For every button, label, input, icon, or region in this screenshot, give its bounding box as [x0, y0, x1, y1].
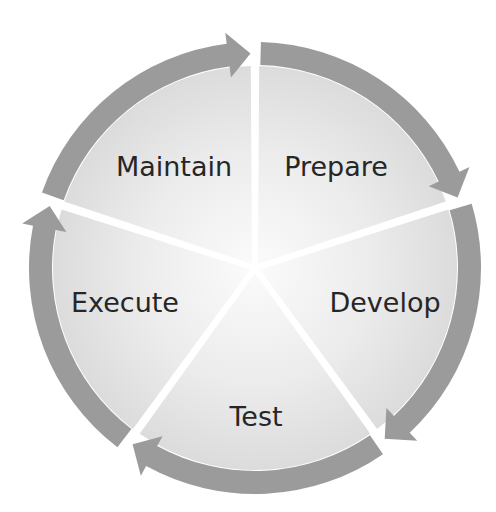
stage-label-execute: Execute: [71, 287, 179, 318]
stage-label-maintain: Maintain: [116, 151, 232, 182]
stage-label-test: Test: [228, 401, 282, 432]
stage-label-prepare: Prepare: [284, 151, 388, 182]
stage-label-develop: Develop: [329, 287, 440, 318]
cycle-diagram: Prepare Develop Test Execute Maintain: [0, 0, 496, 512]
